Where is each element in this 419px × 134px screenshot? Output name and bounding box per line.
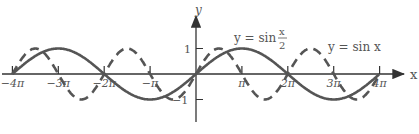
legend-frac-den: 2 bbox=[279, 40, 285, 51]
x-tick-label: 3π bbox=[327, 77, 342, 90]
x-tick-label: −2π bbox=[92, 77, 116, 90]
y-tick-1: 1 bbox=[184, 43, 191, 56]
legend-sin-x: y = sin x bbox=[327, 40, 381, 54]
legend-sin-half: y = sin bbox=[233, 31, 276, 45]
x-tick-label: −π bbox=[142, 77, 159, 90]
legend-frac-num: x bbox=[279, 26, 285, 37]
x-axis-label: x bbox=[410, 67, 418, 82]
x-tick-label: −3π bbox=[47, 77, 71, 90]
y-axis-label: y bbox=[194, 3, 202, 17]
chart-svg: −4π−3π−2π−ππ2π3π4π 1 −1 y x y = sin x 2 … bbox=[0, 0, 419, 134]
x-tick-label: 2π bbox=[280, 77, 296, 90]
x-tick-label: 4π bbox=[371, 77, 387, 90]
x-tick-label: π bbox=[237, 77, 246, 90]
chart: −4π−3π−2π−ππ2π3π4π 1 −1 y x y = sin x 2 … bbox=[0, 0, 419, 134]
y-tick-neg1: −1 bbox=[172, 94, 188, 107]
x-tick-labels: −4π−3π−2π−ππ2π3π4π bbox=[1, 77, 388, 90]
x-tick-label: −4π bbox=[1, 77, 25, 90]
